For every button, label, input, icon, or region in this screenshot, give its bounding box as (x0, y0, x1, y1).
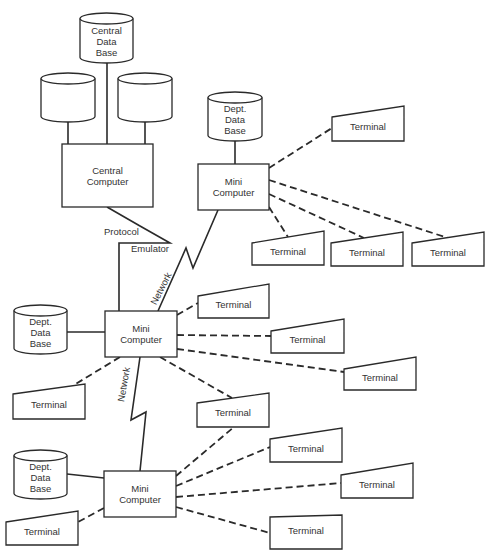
terminal-label: Terminal (359, 479, 395, 490)
terminal-label: Terminal (430, 247, 466, 258)
database-icon (118, 79, 172, 123)
node-label-line: Base (30, 338, 52, 349)
terminal-label: Terminal (350, 121, 386, 132)
storage-right-cylinder (118, 73, 172, 122)
central-computer-box: CentralComputer (62, 144, 153, 207)
network-link-lower (131, 357, 146, 471)
dept-db-middle-cylinder: Dept.DataBase (14, 305, 67, 354)
database-cap (208, 92, 262, 103)
database-cap (14, 450, 67, 461)
terminal-t13: Terminal (6, 511, 78, 545)
terminal-label: Terminal (24, 526, 60, 537)
storage-left-cylinder (41, 73, 95, 122)
terminal-label: Terminal (288, 525, 324, 536)
database-cap (80, 13, 133, 24)
terminal-label: Terminal (270, 246, 306, 257)
central-db-cylinder: CentralDataBase (80, 13, 133, 63)
node-label-line: Base (224, 125, 246, 136)
dash-t8 (74, 357, 120, 385)
dash-t9b (176, 427, 234, 476)
node-label-line: Data (96, 36, 117, 47)
terminal-t7: Terminal (344, 357, 416, 390)
terminal-label: Terminal (362, 372, 398, 383)
mini-computer-middle-box: MiniComputer (105, 311, 177, 357)
dash-t2 (269, 207, 288, 237)
terminal-t1: Terminal (332, 106, 404, 141)
node-label-line: Mini (131, 483, 148, 494)
dash-t11 (176, 483, 341, 497)
terminal-t10: Terminal (270, 428, 342, 462)
mini-computer-bottom-box: MiniComputer (104, 471, 176, 517)
terminal-label: Terminal (349, 247, 385, 258)
terminal-t11: Terminal (341, 463, 413, 498)
dash-t12 (176, 507, 270, 533)
node-label-line: Base (30, 483, 52, 494)
dash-t9 (160, 357, 232, 398)
emulator-label: Emulator (131, 243, 169, 254)
node-label-line: Dept. (29, 461, 52, 472)
terminal-label: Terminal (31, 399, 67, 410)
node-label-line: Dept. (224, 103, 247, 114)
dash-t4 (269, 180, 448, 238)
terminal-label: Terminal (216, 299, 252, 310)
dash-t3 (269, 194, 364, 238)
terminal-t8: Terminal (13, 384, 85, 419)
dept-db-top-cylinder: Dept.DataBase (208, 92, 262, 141)
node-label-line: Mini (132, 323, 149, 334)
node-label-line: Data (30, 327, 51, 338)
node-label-line: Computer (87, 176, 129, 187)
node-label-line: Central (91, 25, 122, 36)
dash-t1 (269, 128, 332, 168)
node-label-line: Dept. (29, 316, 52, 327)
node-label-line: Central (92, 165, 123, 176)
dash-t6 (177, 335, 271, 336)
terminal-t9: Terminal (197, 393, 269, 427)
terminal-t6: Terminal (271, 319, 344, 353)
terminal-t5: Terminal (198, 284, 269, 318)
node-label-line: Base (96, 47, 118, 58)
dept-db-bottom-cylinder: Dept.DataBase (14, 450, 67, 499)
network-label-upper: Network (148, 270, 174, 306)
database-cap (14, 305, 67, 316)
database-icon (41, 79, 95, 122)
protocol-label: Protocol (104, 226, 139, 237)
dash-t5 (177, 303, 198, 315)
terminal-label: Terminal (215, 407, 251, 418)
dash-t13 (78, 508, 104, 522)
terminal-t3: Terminal (331, 232, 403, 266)
terminal-label: Terminal (288, 443, 324, 454)
database-cap (118, 73, 172, 84)
network-label-lower: Network (115, 366, 132, 402)
database-cap (41, 73, 95, 84)
terminal-t12: Terminal (270, 515, 342, 549)
node-label-line: Data (30, 472, 51, 483)
node-label-line: Computer (119, 494, 161, 505)
node-label-line: Computer (120, 334, 162, 345)
node-label-line: Mini (225, 176, 242, 187)
mini-computer-top-box: MiniComputer (198, 164, 269, 210)
terminal-label: Terminal (290, 334, 326, 345)
dash-t10 (176, 447, 270, 486)
link-dept-db-bottom (67, 474, 104, 478)
node-label-line: Data (225, 114, 246, 125)
network-architecture-diagram: CentralDataBaseDept.DataBaseDept.DataBas… (0, 0, 496, 558)
node-label-line: Computer (213, 187, 255, 198)
terminal-t4: Terminal (412, 232, 484, 266)
